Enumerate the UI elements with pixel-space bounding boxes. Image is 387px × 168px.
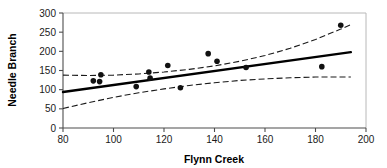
regression-line bbox=[63, 52, 351, 92]
data-point bbox=[165, 63, 171, 69]
data-point bbox=[178, 85, 184, 91]
x-tick-label: 160 bbox=[257, 134, 274, 145]
x-tick-label: 120 bbox=[156, 134, 173, 145]
chart-canvas: 050100150200250300 80100120140160180200 … bbox=[0, 0, 387, 168]
upper-confidence-band bbox=[63, 25, 351, 76]
x-axis-title: Flynn Creek bbox=[184, 153, 244, 165]
data-point bbox=[214, 59, 220, 65]
data-point bbox=[133, 84, 139, 90]
x-tick-label: 140 bbox=[206, 134, 223, 145]
y-tick-label: 250 bbox=[39, 27, 56, 38]
data-point bbox=[243, 65, 249, 71]
data-point bbox=[146, 69, 152, 75]
x-tick-label: 100 bbox=[105, 134, 122, 145]
y-tick-label: 50 bbox=[45, 103, 57, 114]
y-tick-label: 300 bbox=[39, 8, 56, 19]
data-point bbox=[338, 22, 344, 28]
y-axis-title: Needle Branch bbox=[6, 33, 18, 107]
y-axis-ticks: 050100150200250300 bbox=[39, 8, 63, 134]
y-tick-label: 200 bbox=[39, 46, 56, 57]
lower-confidence-band bbox=[63, 77, 351, 108]
data-point bbox=[205, 51, 211, 57]
y-tick-label: 150 bbox=[39, 65, 56, 76]
scatter-plot-figure: 050100150200250300 80100120140160180200 … bbox=[0, 0, 387, 168]
data-points bbox=[91, 22, 344, 90]
x-tick-label: 180 bbox=[307, 134, 324, 145]
data-point bbox=[147, 75, 153, 81]
x-tick-label: 80 bbox=[57, 134, 69, 145]
data-point bbox=[91, 78, 97, 84]
data-point bbox=[97, 79, 103, 85]
x-axis-ticks: 80100120140160180200 bbox=[57, 128, 374, 145]
y-tick-label: 0 bbox=[50, 123, 56, 134]
y-tick-label: 100 bbox=[39, 84, 56, 95]
x-tick-label: 200 bbox=[358, 134, 375, 145]
data-point bbox=[319, 64, 325, 70]
data-point bbox=[98, 72, 104, 78]
